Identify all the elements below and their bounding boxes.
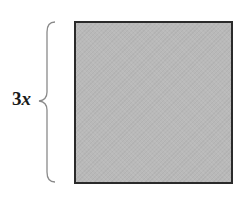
diagram-canvas: 3x	[0, 0, 246, 198]
shaded-square	[74, 21, 233, 184]
